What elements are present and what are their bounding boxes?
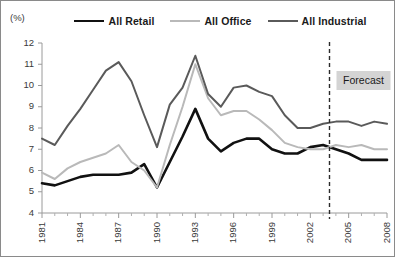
x-tick-label: 2008: [381, 222, 392, 243]
x-tick-label: 1990: [151, 222, 162, 243]
x-tick-label: 2002: [304, 222, 315, 243]
y-tick-label: 8: [29, 122, 34, 133]
series-line-all-office: [42, 64, 387, 187]
series-line-all-industrial: [42, 56, 387, 147]
forecast-label-text: Forecast: [343, 74, 384, 86]
x-tick-label: 1993: [189, 222, 200, 243]
x-tick-label: 1987: [112, 222, 123, 243]
forecast-annotation-group: Forecast: [330, 42, 391, 219]
chart-container: (%) All Retail All Office All Industrial…: [0, 0, 395, 257]
x-axis-group: 1981198419871990199319961999200220052008: [36, 213, 392, 243]
x-axis-ticks: 1981198419871990199319961999200220052008: [36, 213, 392, 243]
y-axis-group: 456789101112: [23, 37, 42, 218]
y-tick-label: 7: [29, 143, 34, 154]
y-tick-label: 6: [29, 164, 34, 175]
x-tick-label: 1984: [74, 222, 85, 243]
x-tick-label: 2005: [342, 222, 353, 243]
y-tick-label: 5: [29, 185, 34, 196]
data-series-group: [42, 56, 387, 188]
plot-area: 456789101112 198119841987199019931996199…: [1, 1, 395, 257]
x-tick-label: 1996: [227, 222, 238, 243]
x-tick-label: 1981: [36, 222, 47, 243]
x-tick-label: 1999: [266, 222, 277, 243]
y-tick-label: 10: [23, 79, 34, 90]
y-tick-label: 12: [23, 37, 34, 48]
y-tick-label: 11: [24, 58, 34, 69]
series-line-all-retail: [42, 109, 387, 188]
y-tick-label: 4: [29, 207, 34, 218]
y-tick-label: 9: [29, 100, 34, 111]
y-axis-ticks: 456789101112: [23, 37, 42, 218]
